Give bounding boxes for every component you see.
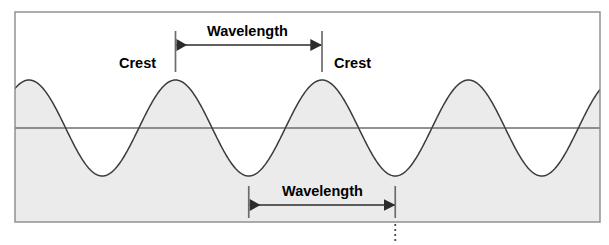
crest-label-left: Crest xyxy=(119,56,156,71)
wavelength-label-top: Wavelength xyxy=(207,24,288,39)
wave-diagram: Crest Crest Wavelength Wavelength xyxy=(0,0,609,245)
wavelength-label-bottom: Wavelength xyxy=(282,184,363,199)
crest-label-right: Crest xyxy=(334,56,371,71)
wave-diagram-canvas xyxy=(0,0,609,245)
